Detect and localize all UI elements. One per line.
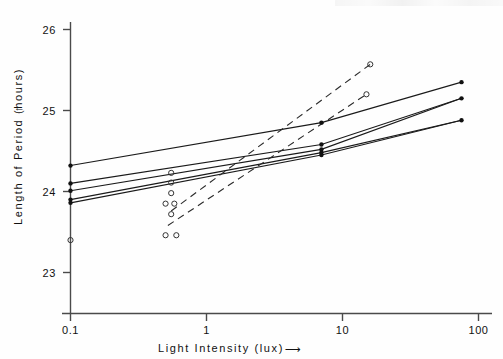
- data-point-open: [163, 201, 168, 206]
- data-point-filled: [68, 188, 72, 192]
- data-point-filled: [459, 118, 463, 122]
- chart-plot: 26 25 24 23 0.1 1 10 100 Length of Perio…: [0, 0, 503, 359]
- y-axis-title-group: Length of Period (hours) ↑: [12, 68, 24, 225]
- x-tick-label-1: 1: [203, 324, 210, 336]
- y-tick-label-24: 24: [43, 186, 56, 198]
- y-tick-label-26: 26: [43, 24, 56, 36]
- data-point-open: [368, 62, 373, 67]
- series-line-dashed-line-2: [168, 94, 367, 225]
- series-line-solid-line-3: [71, 98, 462, 190]
- x-axis-title-group: Light Intensity (lux) ⟶: [158, 342, 302, 355]
- data-point-filled: [319, 153, 323, 157]
- data-point-filled: [319, 120, 323, 124]
- dashed-line-series-group: [168, 64, 370, 225]
- data-point-open: [163, 233, 168, 238]
- data-point-open: [174, 233, 179, 238]
- data-point-open: [364, 92, 369, 97]
- solid-line-series-group: [71, 82, 462, 203]
- y-axis-title: Length of Period (hours): [12, 68, 24, 225]
- y-axis-arrow-icon: ↑: [12, 105, 24, 112]
- series-line-solid-line-2: [71, 98, 462, 183]
- x-axis-title: Light Intensity (lux): [158, 342, 284, 354]
- y-tick-label-25: 25: [43, 105, 56, 117]
- data-point-open: [172, 201, 177, 206]
- x-axis-arrow-icon: ⟶: [285, 343, 302, 355]
- data-point-filled: [68, 201, 72, 205]
- data-point-filled: [68, 181, 72, 185]
- data-point-open: [169, 170, 174, 175]
- series-line-dashed-line-1: [171, 64, 370, 211]
- x-tick-label-100: 100: [468, 324, 488, 336]
- x-tick-label-10: 10: [336, 324, 349, 336]
- figure-canvas: 26 25 24 23 0.1 1 10 100 Length of Perio…: [0, 0, 503, 359]
- data-point-filled: [319, 142, 323, 146]
- data-point-open: [169, 212, 174, 217]
- open-circle-markers-group: [68, 62, 373, 243]
- data-point-filled: [459, 80, 463, 84]
- data-point-filled: [68, 163, 72, 167]
- data-point-open: [169, 191, 174, 196]
- y-axis-line-group: [63, 22, 71, 314]
- y-tick-label-23: 23: [43, 267, 56, 279]
- x-axis-line-group: [62, 314, 492, 322]
- x-tick-label-0-1: 0.1: [62, 324, 79, 336]
- data-point-filled: [459, 96, 463, 100]
